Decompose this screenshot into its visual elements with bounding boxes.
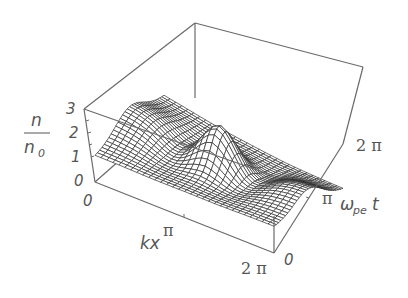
z-tick-3: 3 xyxy=(66,100,76,118)
z-label-denominator-sub: 0 xyxy=(38,147,45,160)
y-axis: 0 π 2 π ω pe t xyxy=(284,136,382,269)
z-label-denominator: n xyxy=(24,137,35,157)
z-label-numerator: n xyxy=(31,110,42,130)
z-tick-1: 1 xyxy=(71,148,81,166)
x-tick-2pi: 2 π xyxy=(241,259,267,278)
z-axis-label: n n 0 xyxy=(24,110,50,160)
x-axis-label: kx xyxy=(140,233,161,253)
y-axis-label-tail: t xyxy=(372,194,380,214)
x-tick-pi: π xyxy=(163,221,174,240)
z-axis-ticks: 3 2 1 0 xyxy=(66,100,84,190)
y-axis-label-sub: pe xyxy=(352,204,367,217)
z-tick-0: 0 xyxy=(74,172,84,190)
surface-mesh xyxy=(95,95,343,226)
y-tick-0: 0 xyxy=(284,251,294,269)
y-tick-pi: π xyxy=(322,189,333,208)
z-tick-2: 2 xyxy=(69,124,79,142)
surface-plot: 3 2 1 0 n n 0 0 π 2 π kx 0 π 2 π ω pe t xyxy=(0,0,408,298)
y-tick-2pi: 2 π xyxy=(356,136,382,155)
x-tick-0: 0 xyxy=(83,192,93,210)
